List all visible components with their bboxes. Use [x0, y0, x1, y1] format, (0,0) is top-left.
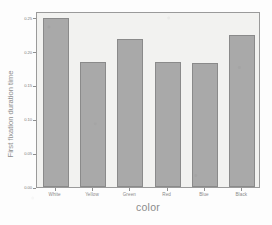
- x-tick-label: Yellow: [85, 192, 99, 197]
- y-tick-label: 0.00: [24, 184, 32, 191]
- y-tick-label: 0.25: [24, 15, 32, 22]
- plot-frame: [36, 12, 260, 188]
- x-tick-mark: [167, 188, 168, 191]
- plot-area: [37, 13, 259, 187]
- x-tick-mark: [241, 188, 242, 191]
- x-tick-mark: [204, 188, 205, 191]
- x-tick-label: White: [49, 192, 61, 197]
- bar-red: [155, 62, 181, 187]
- bar-green: [117, 39, 143, 187]
- bar-black: [229, 35, 255, 187]
- x-tick-mark: [92, 188, 93, 191]
- bar-white: [43, 18, 69, 187]
- x-axis-tick: Black: [223, 188, 260, 202]
- x-tick-label: Green: [123, 192, 136, 197]
- chart-figure: First fixation duration time 0.000.050.1…: [0, 0, 272, 225]
- y-tick-label: 0.20: [24, 49, 32, 56]
- x-tick-label: Red: [162, 192, 171, 197]
- bar-yellow: [80, 62, 106, 187]
- y-tick-label: 0.15: [24, 82, 32, 89]
- y-tick-label: 0.05: [24, 150, 32, 157]
- x-axis-tick: Yellow: [73, 188, 110, 202]
- x-axis-title: color: [36, 201, 260, 213]
- x-axis-tick: White: [36, 188, 73, 202]
- x-axis-tick: Red: [148, 188, 185, 202]
- x-axis: WhiteYellowGreenRedBlueBlack: [36, 188, 260, 202]
- x-tick-mark: [55, 188, 56, 191]
- x-axis-tick: Blue: [185, 188, 222, 202]
- x-tick-label: Black: [235, 192, 247, 197]
- x-axis-tick: Green: [111, 188, 148, 202]
- x-tick-label: Blue: [199, 192, 209, 197]
- y-tick-label: 0.10: [24, 116, 32, 123]
- bar-blue: [192, 63, 218, 187]
- x-tick-mark: [129, 188, 130, 191]
- y-axis: 0.000.050.100.150.200.25: [0, 12, 36, 188]
